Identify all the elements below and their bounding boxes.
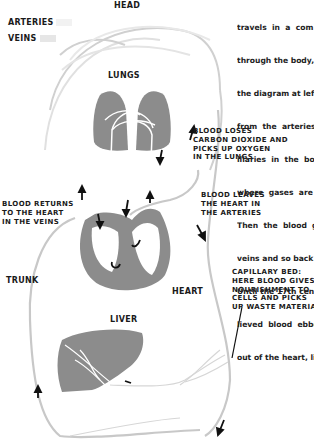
- legend-veins-swatch: [40, 35, 56, 42]
- prose-line: through the body, a: [237, 55, 314, 66]
- legend-arteries-swatch: [56, 19, 72, 26]
- caption-veins-return: BLOOD RETURNS TO THE HEART IN THE VEINS: [2, 200, 74, 226]
- prose-text: travels in a com through the body, a the…: [237, 0, 314, 374]
- heart-label: HEART: [172, 287, 203, 296]
- legend-arteries-label: ARTERIES: [8, 18, 54, 27]
- prose-line: veins and so back t: [237, 253, 314, 264]
- head-label: HEAD: [114, 1, 140, 10]
- prose-line: out of the heart, like: [237, 352, 314, 363]
- liver-label: LIVER: [110, 315, 137, 324]
- trunk-label: TRUNK: [6, 276, 39, 285]
- legend-veins-label: VEINS: [8, 34, 37, 43]
- prose-line: where gases are: [237, 187, 314, 198]
- prose-line: the diagram at left.: [237, 88, 314, 99]
- prose-line: travels in a com: [237, 22, 314, 33]
- prose-line: Until the 17th centu: [237, 286, 314, 297]
- prose-line: lieved blood ebbed: [237, 319, 314, 330]
- prose-line: Then the blood go: [237, 220, 314, 231]
- lungs-label: LUNGS: [108, 71, 140, 80]
- prose-line: from the arteries t: [237, 121, 314, 132]
- prose-line: illaries in the bo: [237, 154, 314, 165]
